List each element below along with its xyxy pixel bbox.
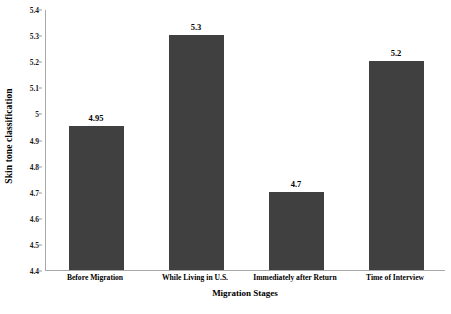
bar-slot: 4.95 [69,10,124,270]
y-axis-tick-label: 4.6 [30,214,39,223]
bar-slot: 4.7 [269,10,324,270]
x-axis-title: Migration Stages [45,288,445,298]
y-axis-tick-label: 5.1 [30,84,39,93]
bar[interactable] [69,126,124,270]
y-axis-tick-labels: 4.44.54.64.74.84.955.15.25.35.4 [18,0,42,272]
y-axis-tick-mark [39,114,42,115]
bar-value-label: 5.2 [369,48,424,58]
bar-chart-figure: Skin tone classification 4.44.54.64.74.8… [0,0,451,314]
y-axis-tick-mark [39,192,42,193]
y-axis-tick-mark [39,271,42,272]
x-axis-tick-label: Immediately after Return [245,273,345,282]
bar-slot: 5.2 [369,10,424,270]
plot-area: 4.955.34.75.2 [45,10,445,271]
y-axis-tick-mark [39,218,42,219]
bar-slot: 5.3 [169,10,224,270]
bar-series: 4.955.34.75.2 [46,10,445,270]
bar[interactable] [269,192,324,270]
y-axis-tick-label: 4.8 [30,162,39,171]
x-axis-tick-labels: Before MigrationWhile Living in U.S.Imme… [45,273,445,287]
y-axis-title: Skin tone classification [0,0,18,272]
y-axis-tick-label: 5.3 [30,32,39,41]
x-axis-tick-label: While Living in U.S. [145,273,245,282]
y-axis-tick-label: 4.4 [30,267,39,276]
bar-value-label: 4.7 [269,179,324,189]
x-axis-tick-label: Before Migration [45,273,145,282]
y-axis-tick-label: 4.9 [30,136,39,145]
y-axis-tick-mark [39,62,42,63]
y-axis-tick-mark [39,88,42,89]
bar[interactable] [169,35,224,270]
y-axis-tick-label: 5.2 [30,58,39,67]
y-axis-tick-label: 5.4 [30,6,39,15]
y-axis-tick-mark [39,244,42,245]
y-axis-tick-mark [39,10,42,11]
bar[interactable] [369,61,424,270]
y-axis-tick-label: 4.5 [30,240,39,249]
y-axis-tick-label: 4.7 [30,188,39,197]
y-axis-tick-mark [39,36,42,37]
y-axis-tick-mark [39,166,42,167]
bar-value-label: 4.95 [69,113,124,123]
x-axis-tick-label: Time of Interview [345,273,445,282]
y-axis-title-text: Skin tone classification [4,88,14,183]
y-axis-tick-mark [39,140,42,141]
bar-value-label: 5.3 [169,22,224,32]
